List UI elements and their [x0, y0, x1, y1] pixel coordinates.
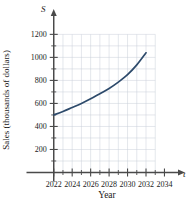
chart-tick-marks: [50, 34, 165, 176]
y-tick-label: 200: [35, 145, 47, 154]
chart-figure: 2022202420262028203020322034200400600800…: [0, 0, 192, 202]
y-axis-arrow-icon: [51, 9, 57, 16]
x-tick-label: 2032: [138, 180, 154, 189]
y-tick-label: 1200: [31, 30, 47, 39]
chart-gridlines: [54, 34, 156, 172]
x-tick-label: 2028: [101, 180, 117, 189]
sales-line-chart: 2022202420262028203020322034200400600800…: [0, 0, 192, 202]
chart-tick-labels: 2022202420262028203020322034200400600800…: [31, 30, 173, 188]
y-tick-label: 400: [35, 122, 47, 131]
x-tick-label: 2030: [120, 180, 136, 189]
x-axis-title: Year: [98, 190, 116, 200]
x-tick-label: 2024: [64, 180, 80, 189]
y-axis-title: Sales (thousands of dollars): [1, 50, 11, 150]
y-tick-label: 800: [35, 76, 47, 85]
y-tick-label: 1000: [31, 53, 47, 62]
y-tick-label: 600: [35, 99, 47, 108]
x-tick-label: 2022: [46, 180, 62, 189]
x-tick-label: 2034: [156, 180, 172, 189]
y-axis-symbol: S: [41, 4, 46, 14]
x-axis-symbol: t: [183, 169, 186, 179]
x-tick-label: 2026: [83, 180, 99, 189]
